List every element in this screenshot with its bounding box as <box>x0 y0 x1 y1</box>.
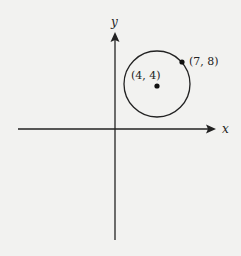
circle-point <box>179 59 184 64</box>
x-axis <box>18 125 216 134</box>
coordinate-diagram: x y (4, 4) (7, 8) <box>0 0 241 256</box>
y-axis <box>111 32 120 240</box>
center-point <box>154 83 159 88</box>
x-axis-label: x <box>222 122 229 136</box>
point-label: (7, 8) <box>189 55 219 68</box>
y-axis-label: y <box>110 15 118 29</box>
center-label: (4, 4) <box>131 69 161 82</box>
